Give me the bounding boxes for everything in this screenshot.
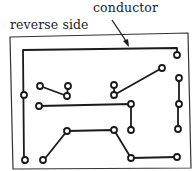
pad [21,92,27,98]
pad [111,127,117,133]
pad [128,127,134,133]
arrow-icon [112,20,129,47]
trace-horizontal [39,104,131,130]
pad [175,126,181,132]
pad [64,128,70,134]
pad [65,83,71,89]
pad [159,65,165,71]
pad [111,92,117,98]
pad [22,157,28,163]
pad [128,155,134,161]
trace-middle [114,68,162,95]
pad [40,157,46,163]
pad [174,52,180,58]
board-outline [10,33,191,169]
pad [36,103,42,109]
pad [111,82,117,88]
trace-bottom [43,130,177,161]
pad [176,101,182,107]
circuit-board-diagram [0,0,195,171]
pad [174,154,180,160]
pad [176,75,182,81]
pad [128,101,134,107]
pad [37,83,43,89]
pad [64,93,70,99]
